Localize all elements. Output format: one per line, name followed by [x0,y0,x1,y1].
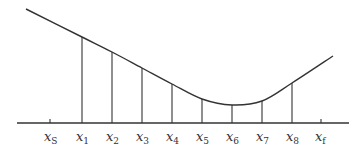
label-x7: x7 [256,129,269,146]
curve [26,9,333,105]
label-x3: x3 [136,129,149,146]
label-x2: x2 [106,129,119,146]
label-x8: x8 [286,129,299,146]
label-x5: x5 [196,129,209,146]
label-xf: xf [315,129,326,146]
curve-diagram: xSx1x2x3x4x5x6x7x8xf [0,0,364,152]
label-x1: x1 [76,129,89,146]
tick-labels: xSx1x2x3x4x5x6x7x8xf [44,129,326,146]
label-xS: xS [44,129,58,146]
label-x6: x6 [226,129,239,146]
sample-lines [50,37,321,123]
label-x4: x4 [166,129,179,146]
